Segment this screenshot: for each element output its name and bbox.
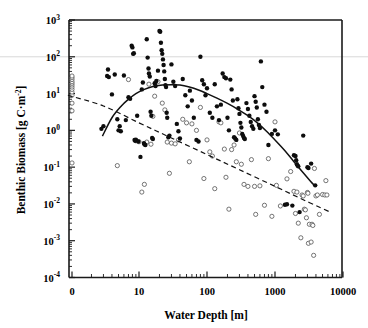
open-circle-point (306, 191, 310, 195)
open-circle-point (222, 147, 226, 151)
filled-circle-point (260, 85, 264, 89)
filled-circle-point (219, 102, 223, 106)
open-circle-point (296, 221, 300, 225)
filled-circle-point (149, 114, 153, 118)
filled-circle-point (124, 118, 128, 122)
filled-circle-point (229, 87, 233, 91)
x-tick-label-0: 0 (69, 286, 74, 297)
open-circle-point (165, 140, 169, 144)
filled-circle-point (262, 102, 266, 106)
filled-circle-point (164, 111, 168, 115)
filled-circle-point (145, 37, 149, 41)
open-circle-point (234, 160, 238, 164)
filled-circle-point (192, 116, 196, 120)
open-circle-point (153, 94, 157, 98)
y-axis-title-prefix: Benthic Biomass [g C (15, 109, 28, 214)
open-circle-point (181, 117, 185, 121)
open-circle-point (249, 158, 253, 162)
open-circle-point (299, 236, 303, 240)
filled-circle-point (228, 77, 232, 81)
open-circle-point (184, 121, 188, 125)
open-circle-point (208, 150, 212, 154)
filled-circle-point (266, 143, 270, 147)
filled-circle-point (135, 114, 139, 118)
open-circle-point (142, 182, 146, 186)
filled-circle-point (202, 82, 206, 86)
filled-circle-point (178, 136, 182, 140)
open-circle-point (246, 184, 250, 188)
filled-circle-point (130, 45, 134, 49)
svg-text:Benthic Biomass [g C·m-2]: Benthic Biomass [g C·m-2] (14, 86, 28, 215)
open-circle-point (160, 101, 164, 105)
open-circle-point (274, 183, 278, 187)
filled-circle-point (259, 59, 263, 63)
filled-circle-point (161, 57, 165, 61)
filled-circle-point (249, 120, 253, 124)
filled-circle-point (188, 88, 192, 92)
filled-circle-point (136, 139, 140, 143)
filled-circle-point (138, 155, 142, 159)
open-circle-point (70, 161, 74, 165)
open-circle-point (289, 169, 293, 173)
filled-circle-point (213, 82, 217, 86)
filled-circle-point (225, 116, 229, 120)
open-circle-point (115, 164, 119, 168)
open-circle-point (70, 74, 74, 78)
open-circle-point (126, 77, 130, 81)
open-circle-point (324, 179, 328, 183)
open-circle-point (190, 122, 194, 126)
filled-circle-point (107, 75, 111, 79)
open-circle-point (295, 190, 299, 194)
filled-circle-point (255, 105, 259, 109)
filled-circle-point (205, 86, 209, 90)
filled-circle-point (243, 137, 247, 141)
filled-circle-point (196, 139, 200, 143)
open-circle-point (301, 194, 305, 198)
open-circle-point (173, 142, 177, 146)
open-circle-point (224, 175, 228, 179)
open-circle-point (140, 190, 144, 194)
open-circle-point (232, 143, 236, 147)
open-circle-point (167, 171, 171, 175)
filled-circle-point (183, 93, 187, 97)
y-axis-title-mid: ·m (15, 95, 27, 109)
open-circle-point (262, 203, 266, 207)
filled-circle-point (171, 80, 175, 84)
open-circle-point (311, 223, 315, 227)
benthic-biomass-scatter-figure: 010100100010000 10310210110010-110-210-3… (0, 0, 368, 328)
filled-circle-point (122, 73, 126, 77)
open-circle-point (317, 212, 321, 216)
filled-circle-point (273, 128, 277, 132)
filled-circle-point (210, 116, 214, 120)
open-circle-point (266, 157, 270, 161)
filled-circle-point (159, 41, 163, 45)
filled-circle-point (285, 202, 289, 206)
filled-circle-point (156, 68, 160, 72)
filled-circle-point (110, 92, 114, 96)
open-circle-point (273, 120, 277, 124)
filled-circle-point (143, 143, 147, 147)
filled-circle-point (117, 124, 121, 128)
chart-canvas: 010100100010000 10310210110010-110-210-3… (0, 0, 368, 328)
open-circle-point (227, 207, 231, 211)
filled-circle-point (306, 166, 310, 170)
open-circle-point (312, 253, 316, 257)
filled-circle-point (162, 69, 166, 73)
filled-circle-point (185, 104, 189, 108)
open-circle-point (293, 211, 297, 215)
open-circle-point (213, 187, 217, 191)
filled-circle-point (264, 110, 268, 114)
open-circle-point (309, 240, 313, 244)
filled-circle-point (235, 97, 239, 101)
filled-circle-point (119, 129, 123, 133)
open-circle-point (303, 208, 307, 212)
filled-circle-point (146, 66, 150, 70)
filled-circle-point (106, 67, 110, 71)
filled-circle-point (132, 51, 136, 55)
filled-circle-point (309, 161, 313, 165)
filled-circle-point (190, 98, 194, 102)
open-circle-point (194, 128, 198, 132)
open-circle-point (149, 142, 153, 146)
filled-circle-point (160, 52, 164, 56)
open-circle-point (198, 105, 202, 109)
